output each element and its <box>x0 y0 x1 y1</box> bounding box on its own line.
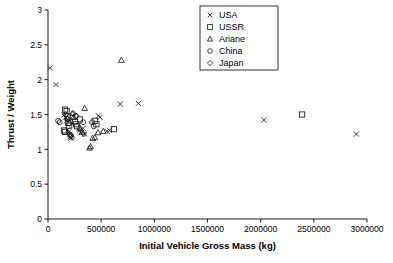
x-tick-label: 0 <box>46 224 51 234</box>
y-tick-label: 2 <box>37 75 42 85</box>
data-point-usa <box>354 131 359 136</box>
series-usa <box>48 65 359 141</box>
legend-label-usa: USA <box>219 10 238 20</box>
y-tick-label: 3 <box>37 5 42 15</box>
data-point-ariane <box>82 105 88 110</box>
data-point-ariane <box>119 57 125 62</box>
legend-label-ussr: USSR <box>219 22 245 32</box>
data-point-usa <box>53 82 58 87</box>
data-point-ussr <box>300 112 305 117</box>
chart-legend: USAUSSRArianeChinaJapan <box>200 6 278 70</box>
data-point-ariane <box>95 130 101 135</box>
x-tick-label: 2000000 <box>244 224 277 234</box>
data-points-layer <box>48 57 359 150</box>
scatter-chart: 00.511.522.53050000010000001500000200000… <box>0 0 393 263</box>
y-tick-label: 0 <box>37 214 42 224</box>
data-point-ussr <box>111 127 116 132</box>
y-axis-title: Thrust / Weight <box>5 79 16 149</box>
legend-label-japan: Japan <box>219 58 244 68</box>
y-tick-label: 2.5 <box>30 40 42 50</box>
y-tick-label: 1.5 <box>30 110 42 120</box>
y-tick-label: 1 <box>37 145 42 155</box>
data-point-usa <box>98 115 103 120</box>
x-tick-label: 1500000 <box>191 224 224 234</box>
data-point-usa <box>118 101 123 106</box>
chart-canvas: 00.511.522.53050000010000001500000200000… <box>0 0 393 263</box>
x-tick-label: 1000000 <box>138 224 171 234</box>
x-tick-label: 2500000 <box>297 224 330 234</box>
data-point-ussr <box>62 107 67 112</box>
legend-label-ariane: Ariane <box>219 34 245 44</box>
legend-label-china: China <box>219 46 243 56</box>
y-tick-label: 0.5 <box>30 179 42 189</box>
data-point-usa <box>136 101 141 106</box>
series-ariane <box>70 57 125 150</box>
x-tick-label: 500000 <box>87 224 116 234</box>
x-tick-label: 3000000 <box>350 224 383 234</box>
x-axis-title: Initial Vehicle Gross Mass (kg) <box>139 240 276 251</box>
data-point-usa <box>261 117 266 122</box>
